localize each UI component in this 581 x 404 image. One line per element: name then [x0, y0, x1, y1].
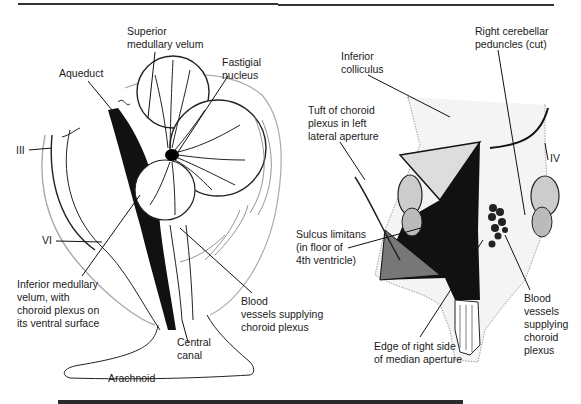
label-nerve-iv: IV [550, 152, 560, 165]
label-line: peduncles (cut) [475, 38, 549, 51]
label-line: 4th ventricle) [296, 254, 366, 267]
bottom-rule [58, 400, 463, 404]
label-blood-vessels-left: Blood vessels supplying choroid plexus [241, 295, 323, 334]
label-line: choroid [524, 331, 568, 344]
label-line: Blood [524, 292, 568, 305]
label-median-aperture-edge: Edge of right side of median aperture [374, 340, 462, 366]
label-line: plexus in left [308, 117, 379, 130]
label-line: vessels [524, 305, 568, 318]
label-line: vessels supplying [241, 308, 323, 321]
label-inferior-medullary-velum: Inferior medullary velum, with choroid p… [17, 278, 99, 330]
label-line: (in floor of [296, 241, 366, 254]
label-nerve-iii: III [16, 144, 25, 157]
label-line: canal [177, 349, 211, 362]
label-right-cerebellar-peduncles: Right cerebellar peduncles (cut) [475, 25, 549, 51]
label-line: Blood [241, 295, 323, 308]
label-line: Fastigial [222, 56, 261, 69]
label-line: colliculus [341, 63, 384, 76]
label-line: supplying [524, 318, 568, 331]
label-aqueduct: Aqueduct [59, 67, 103, 80]
anatomy-illustration [0, 0, 581, 404]
label-line: Aqueduct [59, 67, 103, 80]
label-line: of median aperture [374, 353, 462, 366]
label-line: velum, with [17, 291, 99, 304]
label-nerve-vi: VI [42, 234, 52, 247]
label-central-canal: Central canal [177, 336, 211, 362]
label-line: Inferior [341, 50, 384, 63]
label-line: Right cerebellar [475, 25, 549, 38]
label-line: Tuft of choroid [308, 104, 379, 117]
label-line: Sulcus limitans [296, 228, 366, 241]
label-line: its ventral surface [17, 317, 99, 330]
label-blood-vessels-right: Blood vessels supplying choroid plexus [524, 292, 568, 357]
label-line: Inferior medullary [17, 278, 99, 291]
label-superior-medullary-velum: Superior medullary velum [127, 25, 203, 51]
label-line: choroid plexus on [17, 304, 99, 317]
label-arachnoid: Arachnoid [108, 372, 155, 385]
label-line: VI [42, 234, 52, 247]
label-fastigial-nucleus: Fastigial nucleus [222, 56, 261, 82]
label-line: Superior [127, 25, 203, 38]
label-line: lateral aperture [308, 130, 379, 143]
label-tuft-of-choroid-plexus: Tuft of choroid plexus in left lateral a… [308, 104, 379, 143]
label-inferior-colliculus: Inferior colliculus [341, 50, 384, 76]
label-line: III [16, 144, 25, 157]
label-line: choroid plexus [241, 321, 323, 334]
label-line: IV [550, 152, 560, 165]
label-line: Central [177, 336, 211, 349]
label-sulcus-limitans: Sulcus limitans (in floor of 4th ventric… [296, 228, 366, 267]
label-line: medullary velum [127, 38, 203, 51]
label-line: nucleus [222, 69, 261, 82]
label-line: plexus [524, 344, 568, 357]
label-line: Edge of right side [374, 340, 462, 353]
label-line: Arachnoid [108, 372, 155, 385]
